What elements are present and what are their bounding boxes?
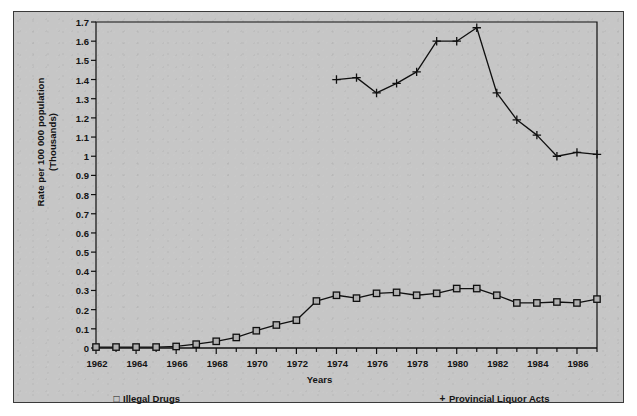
data-point-square-marker (494, 292, 500, 298)
data-point-plus-marker (573, 148, 581, 156)
data-point-square-marker (594, 296, 600, 302)
data-point-square-marker (534, 300, 540, 306)
data-point-square-marker (433, 290, 439, 296)
data-point-plus-marker (392, 79, 400, 87)
data-point-square-marker (253, 328, 259, 334)
data-point-plus-marker (432, 37, 440, 45)
data-point-square-marker (474, 285, 480, 291)
data-point-plus-marker (473, 24, 481, 32)
data-point-square-marker (133, 344, 139, 350)
data-point-square-marker (413, 292, 419, 298)
chart-plot-svg (0, 0, 637, 416)
series-line-illegal-drugs (96, 289, 597, 347)
series-line-provincial-liquor-acts (336, 28, 597, 156)
data-point-square-marker (173, 343, 179, 349)
data-point-square-marker (353, 295, 359, 301)
data-point-plus-marker (453, 37, 461, 45)
data-point-square-marker (393, 289, 399, 295)
data-point-square-marker (514, 300, 520, 306)
data-point-square-marker (113, 344, 119, 350)
data-point-square-marker (554, 299, 560, 305)
data-point-square-marker (313, 298, 319, 304)
data-point-square-marker (93, 344, 99, 350)
data-point-plus-marker (593, 150, 601, 158)
data-point-plus-marker (412, 68, 420, 76)
data-point-square-marker (153, 344, 159, 350)
data-point-square-marker (273, 322, 279, 328)
data-point-plus-marker (332, 75, 340, 83)
data-point-square-marker (233, 334, 239, 340)
data-point-square-marker (574, 300, 580, 306)
data-point-square-marker (373, 290, 379, 296)
data-point-square-marker (193, 341, 199, 347)
data-point-square-marker (454, 285, 460, 291)
plot-frame (96, 22, 597, 348)
data-point-square-marker (213, 338, 219, 344)
data-point-square-marker (293, 317, 299, 323)
data-point-square-marker (333, 292, 339, 298)
